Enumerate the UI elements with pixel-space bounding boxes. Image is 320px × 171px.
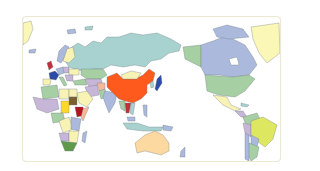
arctic-island[interactable] — [85, 26, 93, 30]
philippines[interactable] — [143, 105, 147, 117]
chile[interactable] — [245, 133, 249, 161]
madagascar[interactable] — [82, 131, 87, 143]
italy[interactable] — [59, 77, 67, 86]
greenland-west[interactable] — [23, 21, 33, 45]
ukraine[interactable] — [69, 69, 79, 75]
spain[interactable] — [43, 79, 51, 85]
egypt[interactable] — [69, 89, 77, 97]
turkey[interactable] — [73, 79, 87, 85]
russia[interactable] — [65, 33, 181, 71]
kazakhstan[interactable] — [81, 69, 107, 79]
iceland[interactable] — [29, 49, 36, 53]
alaska[interactable] — [183, 45, 201, 67]
greenland[interactable] — [251, 23, 280, 63]
usa[interactable] — [205, 75, 255, 97]
svalbard[interactable] — [67, 29, 76, 34]
west-africa[interactable] — [33, 97, 59, 113]
malaysia[interactable] — [127, 117, 135, 121]
myanmar[interactable] — [119, 101, 125, 111]
papua-new-guinea[interactable] — [163, 125, 173, 131]
canadian-arctic-islands[interactable] — [213, 25, 249, 39]
uk[interactable] — [47, 61, 53, 70]
vietnam[interactable] — [130, 103, 135, 115]
map-panel — [22, 16, 281, 162]
mexico[interactable] — [213, 95, 241, 111]
australia[interactable] — [135, 131, 169, 155]
caribbean[interactable] — [241, 103, 249, 107]
sudan[interactable] — [69, 97, 77, 105]
balkans[interactable] — [65, 75, 73, 81]
poland[interactable] — [63, 67, 69, 73]
canada[interactable] — [201, 37, 257, 77]
japan[interactable] — [155, 75, 162, 91]
mozambique-zambia[interactable] — [69, 131, 79, 143]
indonesia[interactable] — [123, 123, 163, 131]
chad[interactable] — [61, 101, 69, 113]
world-map[interactable] — [23, 17, 280, 161]
kenya-tanzania[interactable] — [71, 117, 81, 131]
morocco-algeria[interactable] — [41, 85, 59, 99]
central-america[interactable] — [235, 111, 247, 117]
libya[interactable] — [59, 89, 69, 99]
angola[interactable] — [59, 133, 69, 141]
new-zealand[interactable] — [180, 147, 185, 157]
mongolia[interactable] — [121, 71, 141, 79]
